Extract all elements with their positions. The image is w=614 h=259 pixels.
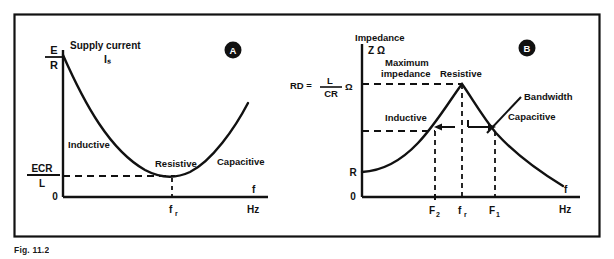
panel-b-impedance-word-label: impedance xyxy=(381,68,431,79)
panel-b-f2-label: F xyxy=(429,205,435,216)
panel-a-y-top-denominator: R xyxy=(50,59,58,71)
figure-caption: Fig. 11.2 xyxy=(14,245,49,259)
panel-b-fr-subscript: r xyxy=(464,211,467,218)
panel-a-resistive-label: Resistive xyxy=(155,158,197,169)
panel-b-badge-letter: B xyxy=(524,43,531,54)
panel-a-current-symbol: Iₛ xyxy=(104,53,111,65)
panel-b-rd-unit: Ω xyxy=(345,81,353,92)
panel-a-fr-subscript: r xyxy=(175,210,178,217)
panel-b-capacitive-label: Capacitive xyxy=(508,111,556,122)
panel-b-rd-numerator: L xyxy=(327,75,333,86)
panel-a-inductive-label: Inductive xyxy=(68,139,110,150)
panel-a-y-min-numerator: ECR xyxy=(31,163,53,174)
panel-b-rd-denominator: CR xyxy=(324,88,338,99)
page-background xyxy=(0,0,614,259)
panel-a-y-top-numerator: E xyxy=(50,44,57,56)
panel-a-capacitive-label: Capacitive xyxy=(217,156,265,167)
panel-b-axis-hz-label: Hz xyxy=(559,204,571,215)
panel-a-badge-letter: A xyxy=(230,45,237,56)
figure-root: E R ECR L 0 Supply current Iₛ Inductive … xyxy=(0,0,614,259)
panel-b-inductive-label: Inductive xyxy=(385,112,427,123)
panel-b-z-ohm-label: Z Ω xyxy=(368,45,385,56)
panel-a-axis-hz-label: Hz xyxy=(247,204,259,215)
panel-b-maximum-label: Maximum xyxy=(385,57,429,68)
panel-a-y-min-denominator: L xyxy=(39,178,45,189)
panel-b-f2-subscript: 2 xyxy=(436,211,440,218)
panel-b-f1-subscript: 1 xyxy=(496,211,500,218)
panel-a-supply-current-label: Supply current xyxy=(70,40,141,51)
panel-b-rd-lhs: RD = xyxy=(290,80,312,91)
panel-a-origin-label: 0 xyxy=(52,191,58,202)
panel-b-impedance-title: Impedance xyxy=(355,32,405,43)
panel-b-resistive-label: Resistive xyxy=(440,68,482,79)
panel-b-origin-label: 0 xyxy=(350,191,356,202)
resonance-curves-figure: E R ECR L 0 Supply current Iₛ Inductive … xyxy=(0,0,614,259)
panel-b-r-label: R xyxy=(349,167,357,178)
panel-b-bandwidth-label: Bandwidth xyxy=(524,91,573,102)
panel-b-f1-label: F xyxy=(489,205,495,216)
